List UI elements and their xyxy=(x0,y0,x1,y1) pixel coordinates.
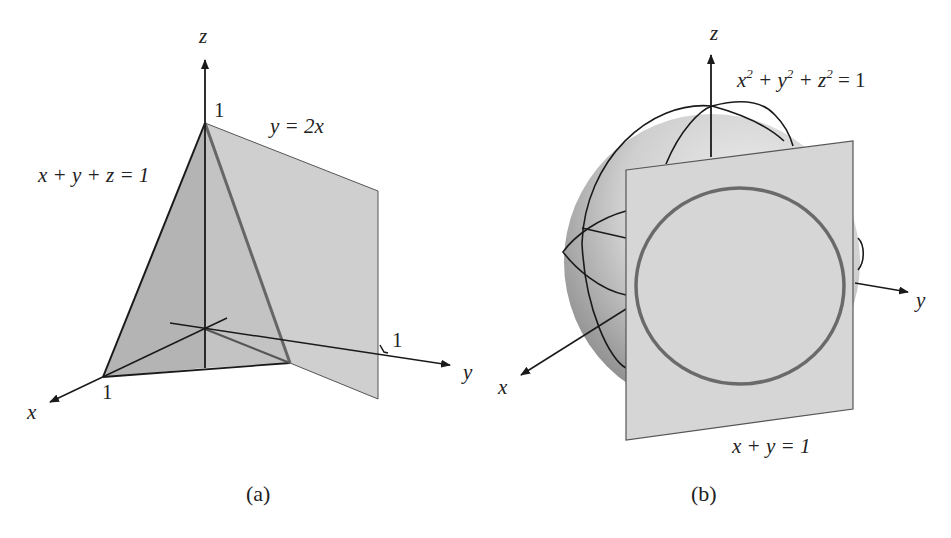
x-axis-label-a: x xyxy=(27,402,36,423)
sphere-label: x2 + y2 + z2 = 1 xyxy=(737,70,866,91)
plane-b-label: x + y = 1 xyxy=(732,436,810,457)
caption-a: (a) xyxy=(246,483,270,505)
z-tick-one-a: 1 xyxy=(214,100,225,121)
plane-x-plus-y-eq-1 xyxy=(626,141,853,440)
vertical-plane-label: y = 2x xyxy=(270,116,324,137)
y-axis-label-b: y xyxy=(916,290,925,311)
tilted-plane-label: x + y + z = 1 xyxy=(38,165,149,186)
y-tick-one-a: 1 xyxy=(392,330,403,351)
x-axis-label-b: x xyxy=(498,377,507,398)
y-axis-label-a: y xyxy=(463,362,472,383)
z-axis-label-b: z xyxy=(710,23,718,44)
figure-a xyxy=(50,60,450,402)
y-axis-b xyxy=(855,283,908,292)
figure-b xyxy=(521,55,908,440)
z-axis-label-a: z xyxy=(199,26,207,47)
x-tick-one-a: 1 xyxy=(102,382,113,403)
caption-b: (b) xyxy=(691,483,717,505)
